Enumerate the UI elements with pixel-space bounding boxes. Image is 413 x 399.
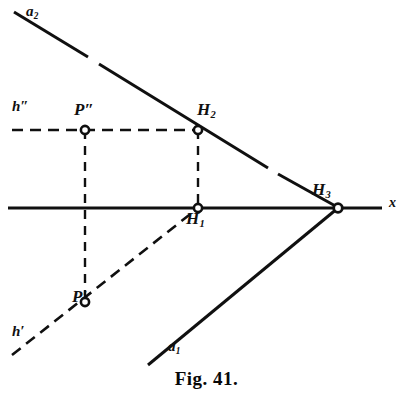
label-line-a1-base: a	[168, 338, 176, 354]
label-axis-x: x	[389, 196, 396, 210]
label-point-p1-base: P	[72, 287, 82, 306]
label-trace-h1-prime: ′	[20, 323, 24, 339]
trace-line-h-prime	[12, 208, 198, 355]
label-point-p2-prime: ″	[84, 100, 93, 119]
label-point-p1-prime: ′	[82, 287, 87, 306]
label-point-h1-subscript: 1	[199, 218, 204, 229]
geometry-drawing	[0, 0, 413, 399]
point-marker-p-double-prime	[81, 126, 89, 134]
label-point-h1-base: H	[186, 209, 199, 228]
label-point-h2-base: H	[197, 100, 210, 119]
label-trace-h2-prime: ″	[20, 98, 28, 114]
label-line-a2-subscript: 2	[34, 11, 39, 21]
label-trace-h-double-prime: h″	[12, 99, 29, 114]
label-point-h3-subscript: 3	[325, 189, 330, 200]
figure-canvas: a2 a1 h″ h′ P″ P′ H2 H1 H3 x Fig. 41.	[0, 0, 413, 399]
label-point-p-double-prime: P″	[74, 101, 94, 118]
label-axis-x-text: x	[389, 195, 396, 210]
point-marker-h2	[194, 126, 202, 134]
label-point-h3: H3	[312, 181, 331, 200]
line-a2-segment-middle	[99, 64, 268, 168]
label-point-p-prime: P′	[72, 288, 87, 305]
label-point-h1: H1	[186, 210, 205, 229]
label-point-p2-base: P	[74, 100, 84, 119]
label-line-a1: a1	[168, 339, 180, 356]
label-line-a1-subscript: 1	[176, 346, 181, 356]
label-point-h2: H2	[197, 101, 216, 120]
label-line-a2: a2	[26, 4, 38, 21]
label-point-h3-base: H	[312, 180, 325, 199]
label-trace-h-prime: h′	[12, 324, 25, 339]
label-point-h2-subscript: 2	[210, 109, 215, 120]
label-line-a2-base: a	[26, 3, 34, 19]
point-marker-h3	[334, 204, 343, 213]
figure-caption: Fig. 41.	[0, 368, 413, 390]
